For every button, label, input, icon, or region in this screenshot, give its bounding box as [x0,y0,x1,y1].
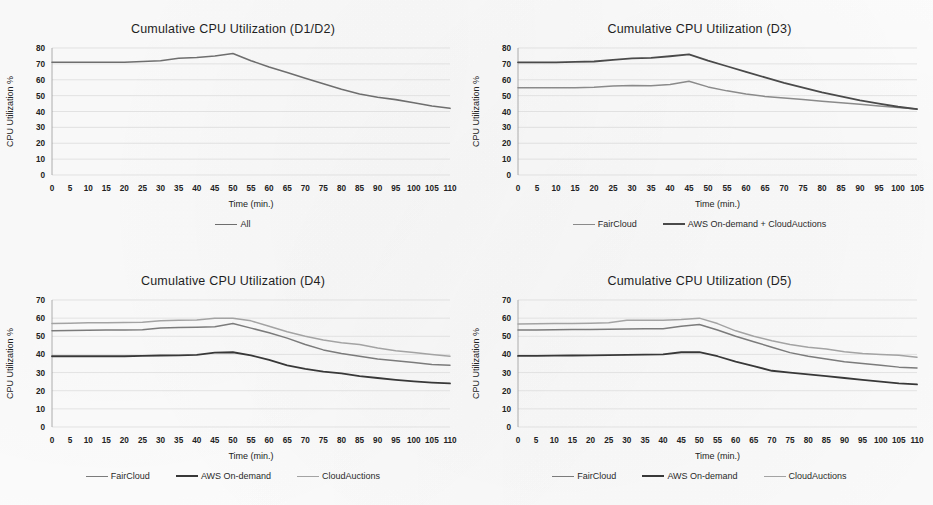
legend-label-aws-on-demand-cloudauctions: AWS On-demand + CloudAuctions [688,219,827,229]
svg-text:45: 45 [684,184,694,193]
svg-text:10: 10 [36,155,46,164]
svg-text:90: 90 [840,436,850,445]
svg-text:40: 40 [502,350,512,359]
svg-text:20: 20 [502,139,512,148]
chart-title-d5: Cumulative CPU Utilization (D5) [466,252,933,288]
legend-swatch-cloudauctions [297,476,319,477]
chart-panel-d3: Cumulative CPU Utilization (D3) 01020304… [466,0,933,252]
svg-text:85: 85 [836,184,846,193]
legend-item-all[interactable]: All [215,219,250,229]
series-line-cloudauctions [518,318,917,357]
svg-text:70: 70 [36,296,46,305]
legend-item-cloudauctions[interactable]: CloudAuctions [297,471,380,481]
svg-text:50: 50 [695,436,705,445]
chart-title-d3: Cumulative CPU Utilization (D3) [466,0,933,36]
svg-text:80: 80 [817,184,827,193]
svg-text:50: 50 [703,184,713,193]
legend-item-faircloud[interactable]: FairCloud [86,471,150,481]
svg-text:15: 15 [570,184,580,193]
svg-text:60: 60 [502,76,512,85]
svg-text:80: 80 [502,44,512,53]
legend-item-faircloud[interactable]: FairCloud [573,219,637,229]
series-line-cloudauctions [52,318,450,356]
svg-text:30: 30 [627,184,637,193]
svg-text:80: 80 [337,436,347,445]
chart-svg-d4: 010203040506070CPU Utilization %05101520… [0,294,466,469]
svg-text:20: 20 [586,436,596,445]
svg-text:40: 40 [36,108,46,117]
svg-text:5: 5 [535,184,540,193]
svg-text:30: 30 [36,123,46,132]
legend-item-aws-on-demand-cloudauctions[interactable]: AWS On-demand + CloudAuctions [663,219,827,229]
svg-text:30: 30 [502,369,512,378]
series-line-faircloud [518,324,917,368]
svg-text:15: 15 [568,436,578,445]
svg-text:50: 50 [228,436,238,445]
svg-text:110: 110 [443,436,457,445]
svg-text:10: 10 [502,405,512,414]
svg-text:70: 70 [502,296,512,305]
plot-area-d1-d2: 01020304050607080CPU Utilization %051015… [0,42,466,217]
svg-text:75: 75 [798,184,808,193]
series-line-aws-on-demand [52,352,450,383]
svg-text:105: 105 [910,184,924,193]
svg-text:70: 70 [36,60,46,69]
legend-item-aws-on-demand[interactable]: AWS On-demand [642,471,737,481]
svg-text:Time (min.): Time (min.) [695,451,740,461]
series-line-faircloud [52,324,450,366]
chart-title-d4: Cumulative CPU Utilization (D4) [0,252,466,288]
svg-text:5: 5 [68,184,73,193]
svg-text:CPU Utilization %: CPU Utilization % [5,76,15,147]
svg-text:45: 45 [677,436,687,445]
legend-swatch-faircloud [552,476,574,477]
series-line-all [52,54,450,109]
svg-text:35: 35 [640,436,650,445]
legend-swatch-faircloud [86,476,108,477]
chart-legend-d4: FairCloudAWS On-demandCloudAuctions [0,471,466,481]
svg-text:60: 60 [265,436,275,445]
svg-text:Time (min.): Time (min.) [695,199,740,209]
legend-item-faircloud[interactable]: FairCloud [552,471,616,481]
legend-item-aws-on-demand[interactable]: AWS On-demand [176,471,271,481]
chart-panel-d5: Cumulative CPU Utilization (D5) 01020304… [466,252,933,505]
svg-text:CPU Utilization %: CPU Utilization % [471,328,481,399]
svg-text:80: 80 [804,436,814,445]
svg-text:60: 60 [731,436,741,445]
svg-text:30: 30 [622,436,632,445]
svg-text:20: 20 [120,436,130,445]
svg-text:40: 40 [192,436,202,445]
svg-text:100: 100 [407,436,421,445]
svg-text:25: 25 [138,436,148,445]
legend-label-aws-on-demand: AWS On-demand [201,471,271,481]
series-line-aws-on-demand [518,352,917,384]
legend-label-cloudauctions: CloudAuctions [322,471,380,481]
svg-text:20: 20 [36,387,46,396]
svg-text:30: 30 [156,436,166,445]
svg-text:20: 20 [120,184,130,193]
svg-text:55: 55 [246,184,256,193]
svg-text:15: 15 [102,436,112,445]
svg-text:50: 50 [36,332,46,341]
svg-text:95: 95 [858,436,868,445]
svg-text:0: 0 [40,423,45,432]
legend-swatch-cloudauctions [764,476,786,477]
svg-text:70: 70 [301,436,311,445]
chart-title-d1-d2: Cumulative CPU Utilization (D1/D2) [0,0,466,36]
chart-panel-d4: Cumulative CPU Utilization (D4) 01020304… [0,252,466,505]
legend-label-all: All [240,219,250,229]
svg-text:Time (min.): Time (min.) [228,199,273,209]
svg-text:50: 50 [502,332,512,341]
legend-label-faircloud: FairCloud [577,471,616,481]
svg-text:30: 30 [502,123,512,132]
legend-swatch-aws-on-demand [176,475,198,477]
svg-text:65: 65 [749,436,759,445]
legend-item-cloudauctions[interactable]: CloudAuctions [764,471,847,481]
svg-text:5: 5 [68,436,73,445]
svg-text:110: 110 [443,184,457,193]
legend-swatch-all [215,224,237,225]
svg-text:60: 60 [741,184,751,193]
svg-text:110: 110 [910,436,924,445]
svg-text:95: 95 [391,436,401,445]
svg-text:65: 65 [283,436,293,445]
svg-text:10: 10 [84,184,94,193]
